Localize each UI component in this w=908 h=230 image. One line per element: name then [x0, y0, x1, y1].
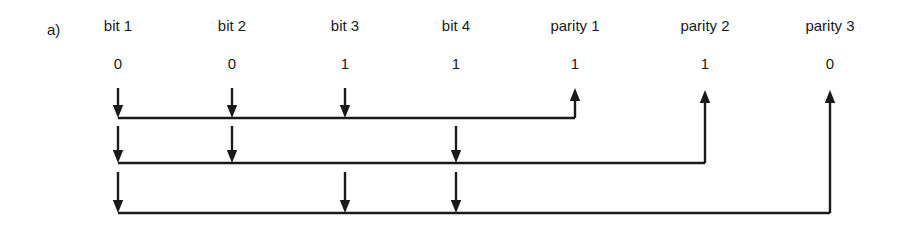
parity-row-3-arrowhead-down-bit-4 — [451, 200, 461, 213]
parity-row-2-arrowhead-down-bit-1 — [113, 150, 123, 163]
parity-row-1-arrowhead-up-parity-1 — [570, 88, 580, 101]
parity-row-1-arrowhead-down-bit-3 — [340, 105, 350, 118]
hamming-parity-diagram: a) bit 10bit 20bit 31bit 41parity 11pari… — [0, 0, 908, 230]
parity-row-2-arrowhead-down-bit-4 — [451, 150, 461, 163]
parity-row-2-arrowhead-down-bit-2 — [227, 150, 237, 163]
parity-row-2-arrowhead-up-parity-2 — [700, 90, 710, 103]
parity-row-3-arrowhead-down-bit-3 — [340, 200, 350, 213]
parity-row-1-arrowhead-down-bit-2 — [227, 105, 237, 118]
parity-row-1-arrowhead-down-bit-1 — [113, 105, 123, 118]
parity-wiring-diagram — [0, 0, 908, 230]
parity-row-3-arrowhead-down-bit-1 — [113, 200, 123, 213]
parity-row-3-arrowhead-up-parity-3 — [825, 90, 835, 103]
